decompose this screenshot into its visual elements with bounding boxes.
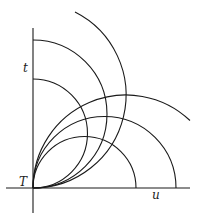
origin-label: T (19, 176, 27, 188)
diagram-canvas (0, 0, 203, 224)
u-axis-label: u (152, 189, 160, 201)
u-arc-medium (33, 117, 176, 188)
t-axis-label: t (23, 62, 28, 74)
u-arc-large (33, 95, 190, 188)
